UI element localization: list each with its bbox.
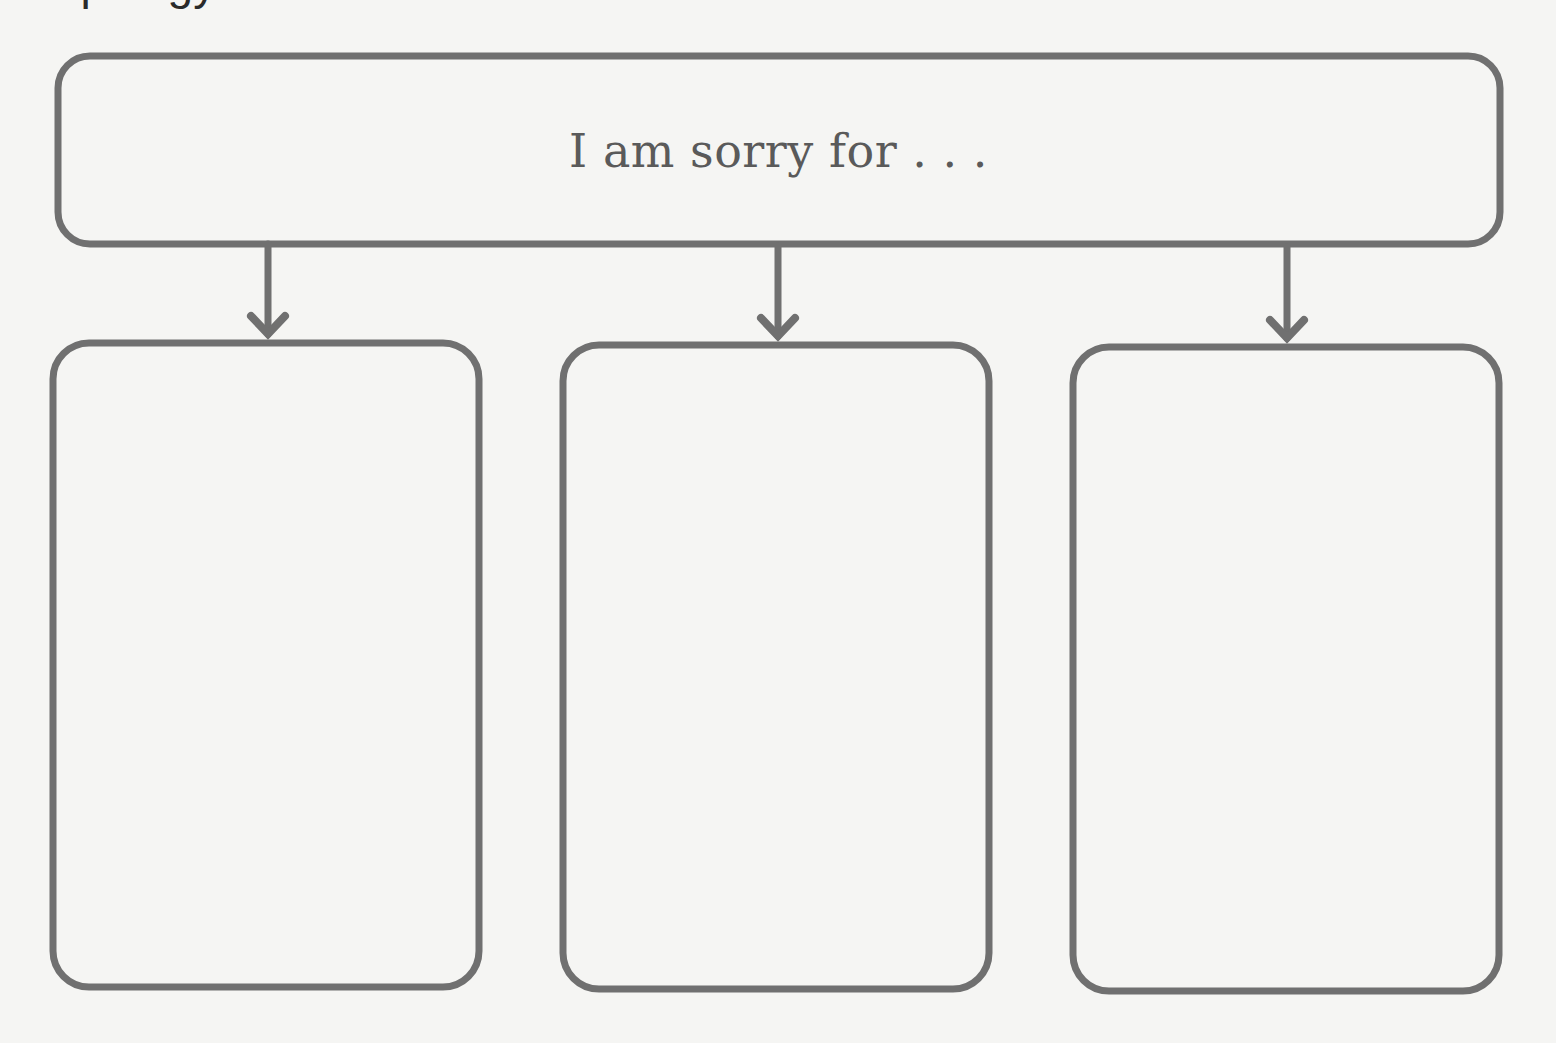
answer-area-1[interactable] xyxy=(57,347,475,983)
prompt-text: I am sorry for . . . xyxy=(55,53,1502,245)
answer-area-3[interactable] xyxy=(1077,351,1495,987)
answer-area-2[interactable] xyxy=(567,349,985,985)
